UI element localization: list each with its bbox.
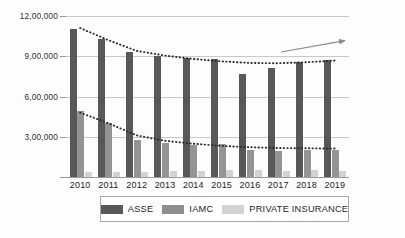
bar-group-2014 bbox=[183, 16, 205, 177]
cropped-caption-edge bbox=[0, 233, 405, 238]
bar-group-2017 bbox=[268, 16, 290, 177]
bar-private-insurance-2015 bbox=[226, 170, 233, 177]
y-tick-label: 12,00,000 bbox=[20, 11, 58, 21]
bar-private-insurance-2012 bbox=[141, 172, 148, 177]
legend-label-private-insurance: PRIVATE INSURANCE bbox=[249, 204, 348, 214]
chart-container: 3,00,0006,00,0009,00,00012,00,000 201020… bbox=[0, 0, 405, 238]
bar-private-insurance-2016 bbox=[255, 170, 262, 177]
x-tick-label-2010: 2010 bbox=[70, 180, 91, 190]
legend-swatch-iamc bbox=[162, 205, 184, 214]
x-axis-labels: 2010201120122013201420152016201720182019 bbox=[66, 180, 349, 196]
x-tick-label-2013: 2013 bbox=[155, 180, 176, 190]
x-tick-label-2019: 2019 bbox=[324, 180, 345, 190]
bar-group-2012 bbox=[126, 16, 148, 177]
bar-asse-2016 bbox=[239, 74, 246, 177]
x-tick-label-2014: 2014 bbox=[183, 180, 204, 190]
bar-asse-2014 bbox=[183, 58, 190, 177]
bar-group-2013 bbox=[154, 16, 176, 177]
chart-legend: ASSE IAMC PRIVATE INSURANCE bbox=[100, 196, 349, 222]
x-tick-label-2017: 2017 bbox=[268, 180, 289, 190]
y-tick-mark bbox=[60, 97, 66, 98]
bar-asse-2011 bbox=[98, 39, 105, 177]
bar-iamc-2014 bbox=[190, 145, 197, 177]
bar-group-2015 bbox=[211, 16, 233, 177]
bar-group-2016 bbox=[239, 16, 261, 177]
bar-group-2011 bbox=[98, 16, 120, 177]
bar-asse-2010 bbox=[70, 29, 77, 177]
bar-iamc-2019 bbox=[332, 150, 339, 178]
bar-group-2018 bbox=[296, 16, 318, 177]
bar-iamc-2015 bbox=[219, 144, 226, 177]
bar-private-insurance-2014 bbox=[198, 171, 205, 177]
x-tick-label-2015: 2015 bbox=[211, 180, 232, 190]
bar-iamc-2018 bbox=[304, 150, 311, 177]
y-tick-mark-zero bbox=[60, 177, 66, 178]
bar-iamc-2011 bbox=[105, 123, 112, 177]
bar-iamc-2017 bbox=[275, 151, 282, 177]
bar-iamc-2016 bbox=[247, 150, 254, 178]
y-tick-label: 6,00,000 bbox=[25, 92, 59, 102]
legend-item-iamc: IAMC bbox=[162, 204, 213, 214]
bar-asse-2017 bbox=[268, 68, 275, 177]
bar-asse-2019 bbox=[324, 60, 331, 177]
y-tick-label: 9,00,000 bbox=[25, 51, 59, 61]
x-axis-line bbox=[62, 177, 349, 178]
bar-iamc-2013 bbox=[162, 143, 169, 177]
plot-area bbox=[66, 16, 349, 177]
legend-swatch-private-insurance bbox=[222, 205, 244, 214]
legend-item-private-insurance: PRIVATE INSURANCE bbox=[222, 204, 348, 214]
x-tick-label-2012: 2012 bbox=[126, 180, 147, 190]
x-tick-label-2016: 2016 bbox=[240, 180, 261, 190]
bar-private-insurance-2017 bbox=[283, 171, 290, 177]
y-axis-labels: 3,00,0006,00,0009,00,00012,00,000 bbox=[0, 16, 62, 177]
bar-iamc-2010 bbox=[77, 111, 84, 177]
bar-group-2019 bbox=[324, 16, 346, 177]
bar-private-insurance-2018 bbox=[311, 170, 318, 177]
x-tick-label-2018: 2018 bbox=[296, 180, 317, 190]
legend-label-asse: ASSE bbox=[128, 204, 154, 214]
legend-label-iamc: IAMC bbox=[189, 204, 213, 214]
bar-asse-2012 bbox=[126, 52, 133, 177]
legend-swatch-asse bbox=[101, 205, 123, 214]
y-tick-mark bbox=[60, 56, 66, 57]
bar-asse-2015 bbox=[211, 59, 218, 177]
bar-private-insurance-2019 bbox=[339, 171, 346, 177]
bar-private-insurance-2013 bbox=[170, 171, 177, 177]
bar-group-2010 bbox=[70, 16, 92, 177]
bar-private-insurance-2010 bbox=[85, 172, 92, 177]
y-tick-mark bbox=[60, 16, 66, 17]
bar-asse-2018 bbox=[296, 62, 303, 177]
y-tick-label: 3,00,000 bbox=[25, 132, 59, 142]
y-tick-mark bbox=[60, 137, 66, 138]
x-tick-label-2011: 2011 bbox=[98, 180, 118, 190]
bar-private-insurance-2011 bbox=[113, 172, 120, 177]
bar-iamc-2012 bbox=[134, 140, 141, 177]
legend-item-asse: ASSE bbox=[101, 204, 154, 214]
bar-asse-2013 bbox=[154, 56, 161, 177]
